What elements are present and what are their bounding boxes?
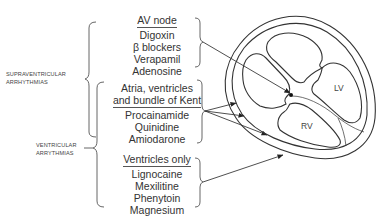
lv-label: LV: [334, 83, 344, 93]
heart-outer-wall: [225, 16, 375, 158]
av-node-right-brace: [195, 18, 203, 67]
arrow-av-node: [203, 42, 290, 93]
atria-right-brace: [197, 80, 205, 143]
diagram-lines: [0, 0, 391, 224]
left-atrium-chamber: [266, 33, 322, 83]
heart-inner-wall: [232, 23, 367, 149]
supraventricular-brace: [85, 22, 96, 137]
right-atrium-chamber: [243, 54, 290, 108]
arrow-ventricles: [203, 155, 283, 182]
antiarrhythmic-diagram: SUPRAVENTRICULAR ARRHYTHMIAS VENTRICULAR…: [0, 0, 391, 224]
ventricles-only-right-brace: [195, 158, 203, 207]
heart-cross-section: [225, 16, 375, 158]
rv-label: RV: [301, 121, 313, 131]
ventricular-brace: [93, 82, 104, 207]
av-node-dot: [289, 93, 293, 97]
